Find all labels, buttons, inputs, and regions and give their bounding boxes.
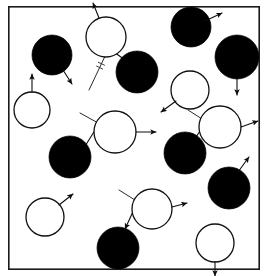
figure-container <box>0 0 267 276</box>
open-particle-collision-d <box>132 189 172 229</box>
filled-particle-2 <box>171 7 211 47</box>
open-particle-1 <box>14 92 50 128</box>
filled-particle-collision-c <box>164 132 206 174</box>
filled-particle-collision-a <box>116 51 158 93</box>
open-particle-4 <box>196 224 234 262</box>
filled-particle-3 <box>215 35 259 79</box>
open-particle-collision-c <box>199 106 241 148</box>
filled-particle-collision-b <box>49 136 91 178</box>
open-particle-collision-b <box>94 111 136 153</box>
open-particle-collision-a <box>86 17 126 57</box>
filled-particle-collision-d <box>97 227 139 269</box>
open-particle-2 <box>171 71 209 109</box>
particle-scattering-figure <box>0 0 267 276</box>
filled-particle-4 <box>208 167 250 209</box>
filled-particle-1 <box>32 35 72 75</box>
open-particle-3 <box>26 198 64 236</box>
